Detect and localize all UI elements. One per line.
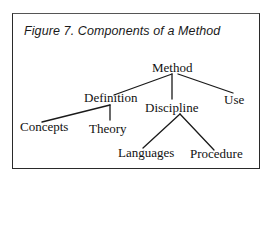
edge-discipline-procedure (180, 114, 214, 150)
node-languages: Languages (118, 146, 174, 159)
edge-discipline-languages (143, 114, 180, 148)
node-procedure: Procedure (190, 147, 243, 160)
node-definition: Definition (84, 91, 137, 104)
node-concepts: Concepts (20, 120, 68, 133)
edge-method-use (178, 74, 233, 93)
node-method: Method (152, 61, 192, 74)
node-use: Use (224, 93, 244, 106)
node-discipline: Discipline (145, 101, 198, 114)
node-theory: Theory (89, 122, 127, 135)
